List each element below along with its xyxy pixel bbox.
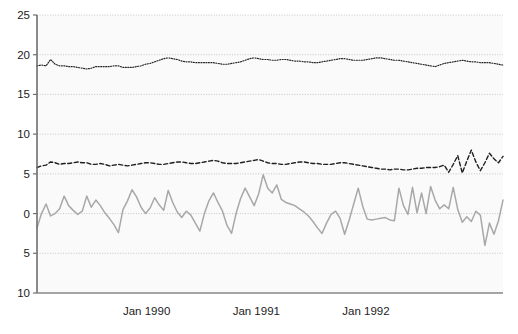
y-axis-tick-label: 15: [17, 88, 30, 100]
x-axis-tick-label: Jan 1992: [342, 305, 389, 317]
clipped-caption-text: [0, 328, 518, 334]
y-axis-tick-label: 5: [24, 168, 30, 180]
y-axis-tick-label: 10: [17, 128, 30, 140]
plot-area-background: [37, 15, 503, 293]
y-axis-tick-label: 20: [17, 49, 30, 61]
y-axis-tick-label: 25: [17, 9, 30, 21]
y-axis-tick-label: 0: [24, 208, 30, 220]
x-axis-tick-label: Jan 1991: [233, 305, 280, 317]
line-chart: 2520151050510 Jan 1990Jan 1991Jan 1992: [0, 0, 518, 334]
y-axis-tick-label: 5: [24, 247, 30, 259]
y-axis-tick-label: 10: [17, 287, 30, 299]
chart-figure: 2520151050510 Jan 1990Jan 1991Jan 1992: [0, 0, 518, 334]
x-axis-tick-label: Jan 1990: [123, 305, 170, 317]
x-axis-tick-labels: Jan 1990Jan 1991Jan 1992: [123, 305, 390, 317]
